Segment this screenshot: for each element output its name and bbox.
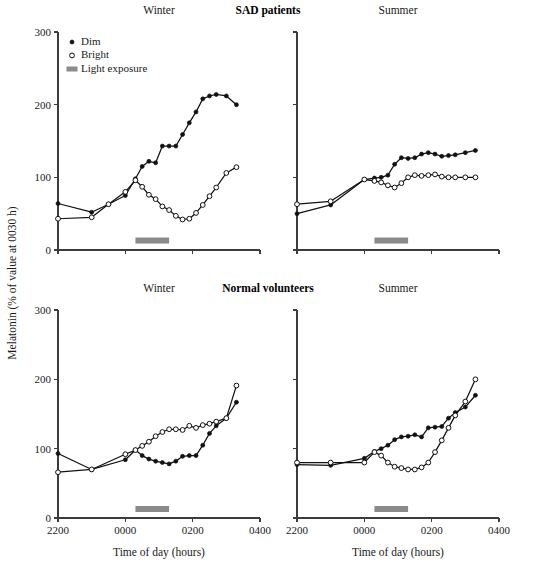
data-point-sad-winter-dim-5 [140,164,144,168]
data-point-normal-winter-dim-9 [174,459,178,463]
data-point-sad-summer-bright-3 [372,179,377,184]
data-point-normal-winter-bright-3 [133,448,138,453]
data-point-normal-winter-bright-1 [89,467,94,472]
axis-lines-sad-summer [297,32,499,250]
data-point-sad-winter-dim-13 [194,110,198,114]
data-point-sad-summer-dim-15 [453,153,457,157]
data-point-normal-summer-bright-13 [439,438,444,443]
data-point-normal-winter-dim-10 [181,454,185,458]
group-title-0: SAD patients [236,4,301,17]
data-point-sad-summer-dim-16 [463,151,467,155]
y-tick-label-sad-winter-2: 200 [35,99,52,111]
data-point-sad-summer-dim-8 [406,156,410,160]
legend-label-2: Light exposure [81,62,147,74]
data-point-sad-winter-dim-1 [90,210,94,214]
data-point-sad-winter-bright-2 [106,202,111,207]
x-tick-label-normal-winter-3: 0400 [249,524,272,536]
data-point-sad-summer-bright-5 [386,183,391,188]
data-point-sad-summer-dim-7 [399,156,403,160]
panel-title-sad-winter: Winter [143,4,175,16]
y-axis-title: Melatonin (% of value at 0030 h) [6,206,19,359]
panel-sad-summer: Summer [293,4,499,254]
data-point-normal-winter-bright-7 [160,430,165,435]
data-point-sad-summer-dim-11 [426,151,430,155]
data-point-normal-summer-bright-16 [463,399,468,404]
data-point-sad-winter-bright-17 [224,171,229,176]
data-point-normal-winter-dim-2 [123,458,127,462]
light-exposure-bar-normal-winter [135,506,169,512]
data-point-sad-summer-bright-6 [392,185,397,190]
data-point-sad-winter-dim-14 [201,97,205,101]
data-point-sad-winter-bright-12 [187,216,192,221]
x-tick-label-normal-winter-1: 0000 [114,524,137,536]
data-point-sad-summer-bright-2 [362,177,367,182]
data-point-sad-winter-bright-4 [133,178,138,183]
data-point-normal-summer-bright-6 [392,464,397,469]
data-point-sad-winter-dim-0 [56,201,60,205]
panel-normal-summer: Summer2200000002000400Time of day (hours… [286,282,511,559]
data-point-sad-winter-bright-18 [234,165,239,170]
data-point-normal-summer-bright-5 [386,460,391,465]
legend-gray-bar-icon [67,67,78,72]
data-point-sad-summer-bright-15 [453,175,458,180]
data-point-sad-summer-bright-12 [433,172,438,177]
data-point-sad-winter-dim-12 [187,121,191,125]
light-exposure-bar-sad-winter [135,238,169,244]
data-point-sad-summer-bright-7 [399,181,404,186]
data-point-sad-winter-dim-9 [167,144,171,148]
y-tick-label-normal-winter-1: 100 [35,443,52,455]
y-tick-label-normal-winter-3: 300 [35,304,52,316]
data-point-normal-summer-dim-16 [463,405,467,409]
data-point-sad-summer-dim-9 [413,156,417,160]
series-line-sad-summer-dim [297,150,475,213]
data-point-normal-summer-bright-15 [453,413,458,418]
data-point-sad-summer-bright-10 [419,173,424,178]
data-point-sad-summer-dim-0 [295,212,299,216]
group-title-1: Normal volunteers [222,282,314,294]
x-axis-title-normal-winter: Time of day (hours) [113,546,205,559]
melatonin-figure: Winter0100200300SummerWinter010020030022… [0,0,537,566]
data-point-normal-winter-bright-2 [123,452,128,457]
data-point-normal-winter-dim-13 [201,443,205,447]
panel-sad-winter: Winter0100200300 [35,4,261,256]
data-point-sad-winter-bright-13 [194,211,199,216]
data-point-sad-winter-dim-8 [160,144,164,148]
data-point-normal-summer-dim-10 [420,435,424,439]
data-point-normal-summer-dim-6 [393,438,397,442]
data-point-sad-winter-bright-15 [207,194,212,199]
data-point-normal-winter-bright-4 [140,443,145,448]
figure-canvas: Winter0100200300SummerWinter010020030022… [0,0,537,566]
data-point-normal-summer-dim-7 [399,435,403,439]
data-point-sad-winter-bright-16 [214,185,219,190]
y-tick-label-sad-winter-1: 100 [35,171,52,183]
data-point-normal-winter-dim-11 [187,454,191,458]
data-point-normal-summer-bright-17 [473,377,478,382]
data-point-normal-winter-bright-10 [180,428,185,433]
data-point-normal-winter-bright-12 [194,425,199,430]
data-point-sad-winter-bright-0 [56,216,61,221]
data-point-normal-summer-dim-4 [379,447,383,451]
data-point-normal-winter-bright-14 [207,421,212,426]
data-point-sad-winter-bright-7 [153,197,158,202]
data-point-sad-winter-bright-11 [180,217,185,222]
panel-title-normal-summer: Summer [379,282,418,294]
data-point-normal-winter-bright-8 [167,427,172,432]
data-point-normal-summer-dim-17 [473,393,477,397]
data-point-normal-winter-dim-12 [194,454,198,458]
data-point-normal-winter-bright-0 [56,470,61,475]
data-point-normal-winter-bright-9 [173,427,178,432]
data-point-sad-summer-dim-14 [447,154,451,158]
data-point-normal-winter-dim-7 [160,461,164,465]
data-point-sad-summer-dim-17 [473,148,477,152]
x-axis-title-normal-summer: Time of day (hours) [352,546,444,559]
data-point-normal-summer-bright-4 [379,453,384,458]
x-tick-label-normal-summer-0: 2200 [286,524,309,536]
x-tick-label-normal-summer-2: 0200 [421,524,444,536]
data-point-sad-summer-bright-4 [379,180,384,185]
data-point-normal-summer-bright-11 [426,460,431,465]
data-point-sad-winter-dim-7 [154,161,158,165]
data-point-normal-winter-dim-5 [147,457,151,461]
data-point-sad-summer-bright-11 [426,173,431,178]
data-point-sad-winter-dim-18 [234,103,238,107]
legend-filled-circle-icon [70,40,74,44]
